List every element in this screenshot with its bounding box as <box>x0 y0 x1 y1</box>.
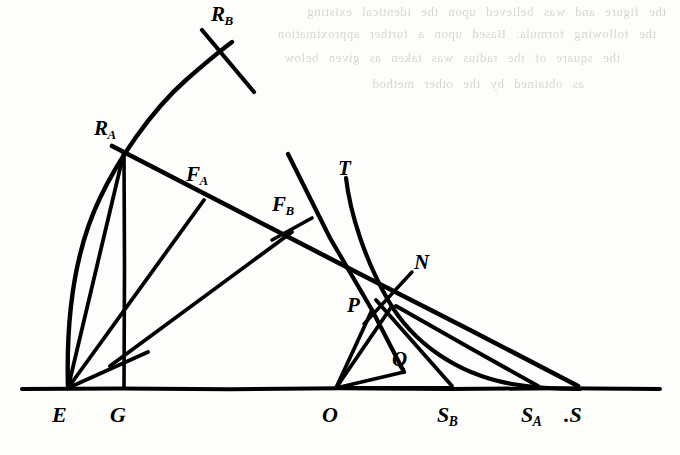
label-T: T <box>338 158 351 179</box>
label-S-A: SA <box>521 404 542 426</box>
line-E-to-FB <box>110 232 292 366</box>
label-O: O <box>322 404 338 426</box>
construction-linework <box>0 0 680 455</box>
label-F-A: FA <box>186 164 209 185</box>
label-G: G <box>110 404 126 426</box>
label-F-B: FB <box>272 194 295 215</box>
curve-T-to-S <box>346 178 580 389</box>
label-Q: Q <box>392 349 407 370</box>
label-E: E <box>52 404 67 426</box>
label-R-A: RA <box>94 118 117 139</box>
label-R-B: RB <box>211 4 234 25</box>
line-G-to-RA-vertical <box>124 154 125 388</box>
label-P: P <box>347 295 360 316</box>
label-S-B: SB <box>437 404 458 426</box>
figure-canvas: the figure and was believed upon the ide… <box>0 0 680 455</box>
label-N: N <box>414 252 429 273</box>
label-S: .S <box>564 404 582 426</box>
